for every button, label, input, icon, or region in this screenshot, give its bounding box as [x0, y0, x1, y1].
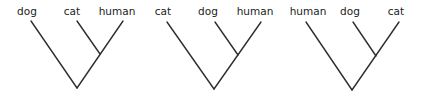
leaf-label: dog	[340, 5, 360, 17]
tree-branch	[77, 21, 100, 54]
tree-branch	[306, 22, 352, 90]
leaf-label: dog	[17, 5, 37, 17]
tree-3: human dog cat	[290, 5, 404, 90]
tree-1: dog cat human	[17, 5, 135, 88]
tree-branch	[167, 22, 214, 89]
phylogenetic-trees-diagram: dog cat human cat dog human human dog ca…	[0, 0, 424, 98]
leaf-label: human	[290, 5, 327, 17]
leaf-label: cat	[155, 5, 171, 17]
leaf-label: human	[99, 5, 136, 17]
leaf-label: human	[237, 5, 274, 17]
tree-branch	[215, 22, 238, 55]
tree-2: cat dog human	[155, 5, 273, 89]
tree-branch	[31, 21, 77, 88]
tree-branch	[214, 22, 261, 89]
tree-branch	[353, 22, 376, 56]
leaf-label: dog	[198, 5, 218, 17]
leaf-label: cat	[388, 5, 404, 17]
leaf-label: cat	[64, 5, 80, 17]
